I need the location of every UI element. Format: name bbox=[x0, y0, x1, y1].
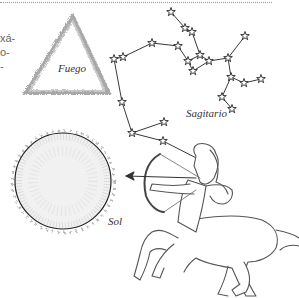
illustration-canvas bbox=[0, 0, 299, 298]
centaur-archer-icon bbox=[126, 143, 299, 296]
fuego-label: Fuego bbox=[58, 62, 86, 74]
star-icons bbox=[110, 8, 266, 145]
sagitario-label: Sagitario bbox=[186, 107, 227, 119]
sun-icon bbox=[12, 130, 114, 232]
sagittarius-constellation bbox=[114, 12, 261, 165]
fire-triangle-icon bbox=[25, 16, 108, 92]
sol-label: Sol bbox=[108, 215, 122, 227]
